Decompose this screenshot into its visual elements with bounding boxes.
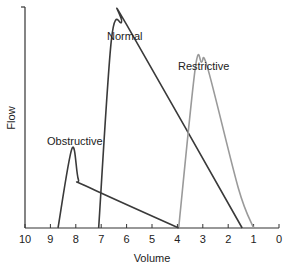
x-tick-label: 0	[276, 233, 282, 245]
flow-volume-chart: 109876543210 Normal Restrictive Obstruct…	[0, 0, 295, 270]
curves	[58, 8, 254, 228]
obstructive-curve	[58, 147, 179, 228]
x-tick-label: 5	[149, 233, 155, 245]
obstructive-label: Obstructive	[47, 135, 103, 147]
x-tick-label: 1	[251, 233, 257, 245]
x-tick-label: 9	[47, 233, 53, 245]
x-tick-label: 3	[200, 233, 206, 245]
restrictive-label: Restrictive	[178, 60, 229, 72]
x-tick-label: 7	[98, 233, 104, 245]
restrictive-curve	[179, 55, 254, 228]
x-tick-label: 6	[124, 233, 130, 245]
x-tick-labels: 109876543210	[19, 233, 282, 245]
x-tick-label: 8	[73, 233, 79, 245]
normal-label: Normal	[107, 30, 142, 42]
x-axis-label: Volume	[134, 252, 171, 264]
x-tick-label: 4	[174, 233, 180, 245]
x-tick-label: 10	[19, 233, 31, 245]
y-axis-label: Flow	[5, 106, 17, 129]
x-tick-label: 2	[225, 233, 231, 245]
